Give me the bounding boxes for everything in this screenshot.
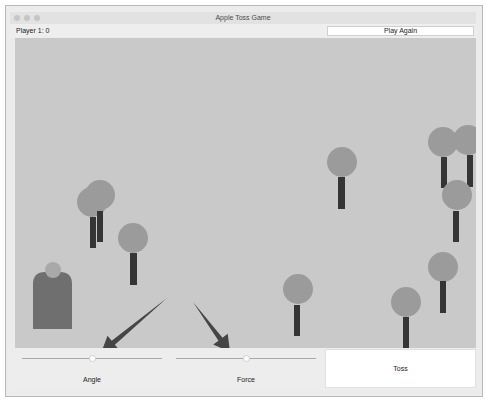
play-again-button[interactable]: Play Again <box>327 26 474 36</box>
tree-crown <box>453 125 476 155</box>
tree-trunk <box>97 211 103 242</box>
tree-crown <box>85 180 115 210</box>
force-arrow <box>193 302 230 348</box>
tree-crown <box>327 147 357 177</box>
player-head <box>45 262 61 278</box>
window-title: Apple Toss Game <box>10 12 476 24</box>
tree-trunk <box>467 155 473 187</box>
tree-crown <box>442 180 472 210</box>
score-label: Player 1: 0 <box>16 26 49 36</box>
tree-trunk <box>338 177 345 209</box>
tree-crown <box>118 223 148 253</box>
force-label: Force <box>216 376 276 383</box>
tree-crown <box>391 287 421 317</box>
toss-button[interactable]: Toss <box>325 349 476 388</box>
angle-slider-thumb[interactable] <box>89 355 96 362</box>
tree-trunk <box>403 317 409 348</box>
tree-trunk <box>440 281 446 313</box>
tree-crown <box>428 252 458 282</box>
tree-trunk <box>294 305 300 336</box>
tree-trunk <box>130 253 137 285</box>
angle-label: Angle <box>62 376 122 383</box>
angle-arrow <box>101 298 167 348</box>
tree-trunk <box>441 157 447 188</box>
force-slider-thumb[interactable] <box>243 355 250 362</box>
game-scene <box>15 38 476 348</box>
tree-trunk <box>453 211 459 242</box>
player-body <box>33 272 72 329</box>
tree-trunk <box>90 217 96 248</box>
game-canvas[interactable] <box>15 38 476 348</box>
tree-crown <box>283 274 313 304</box>
